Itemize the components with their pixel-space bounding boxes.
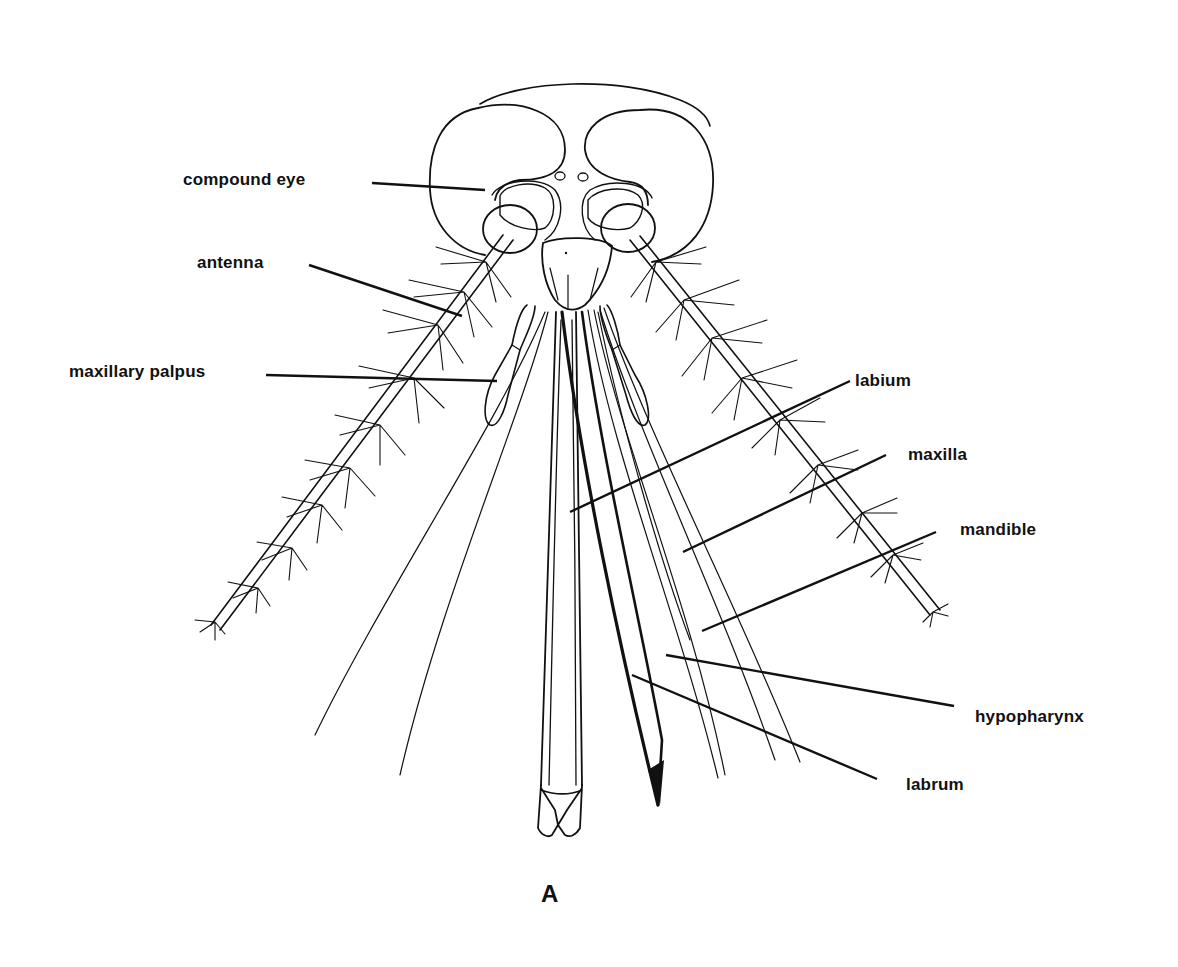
right-antenna	[630, 236, 948, 627]
leader-antenna	[309, 265, 462, 316]
leader-maxillary-palpus	[266, 375, 497, 381]
labium	[538, 312, 582, 836]
label-mandible: mandible	[960, 520, 1036, 540]
label-compound-eye: compound eye	[183, 170, 305, 190]
mosquito-head-diagram: compound eye antenna maxillary palpus la…	[0, 0, 1178, 967]
left-antenna	[195, 235, 513, 640]
mosquito-head-drawing	[0, 0, 1178, 967]
labella	[538, 785, 582, 836]
label-antenna: antenna	[197, 253, 264, 273]
leader-labrum	[632, 675, 877, 779]
label-maxillary-palpus: maxillary palpus	[69, 362, 205, 382]
leader-hypopharynx	[666, 655, 954, 706]
maxillary-palps	[485, 305, 648, 425]
clypeus	[542, 238, 612, 310]
figure-caption: A	[541, 880, 559, 908]
label-labium: labium	[855, 371, 911, 391]
label-labrum: labrum	[906, 775, 964, 795]
label-maxilla: maxilla	[908, 445, 967, 465]
leader-compound-eye	[372, 183, 485, 190]
left-compound-eye	[430, 105, 565, 255]
label-hypopharynx: hypopharynx	[975, 707, 1084, 727]
leader-mandible	[702, 532, 936, 631]
